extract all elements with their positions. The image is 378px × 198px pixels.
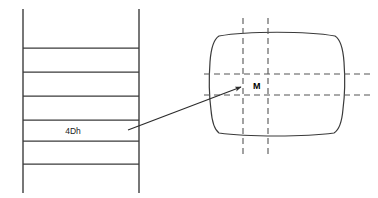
point-label-m: M: [253, 81, 261, 91]
callout-leader-line: [128, 87, 241, 130]
stack-layer-label: 4Dh: [65, 126, 81, 136]
stack-rungs: [23, 48, 139, 164]
barrel-cross-section: [209, 32, 344, 136]
cross-section-outline: [209, 32, 344, 136]
technical-diagram: 4Dh M: [0, 0, 378, 198]
callout-arrow: [128, 87, 241, 130]
layer-stack: 4Dh: [23, 9, 139, 193]
diagram-canvas: 4Dh M: [0, 0, 378, 198]
